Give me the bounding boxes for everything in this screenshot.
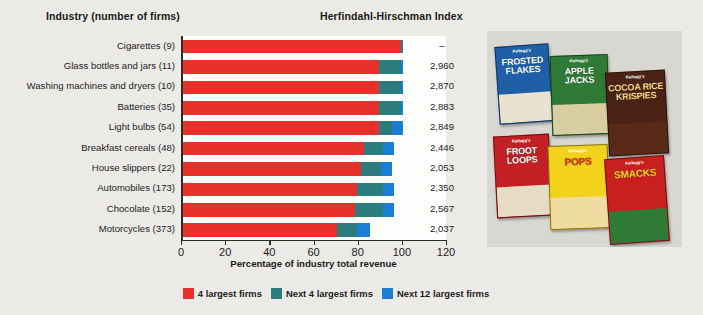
industry-label: House slippers (22) [92,162,175,173]
x-tick-120 [446,240,447,245]
industry-label: Breakfast cereals (48) [81,142,175,153]
bar-segment-four-largest [183,81,380,95]
chart-figure: Industry (number of firms) Herfindahl-Hi… [0,0,703,315]
cereal-box-art [609,208,669,244]
chart-row: Washing machines and dryers (10)2,870 [0,77,470,97]
cereal-box: Kellogg'sFROOT LOOPS [493,134,553,219]
chart-row: Glass bottles and jars (11)2,960 [0,57,470,77]
x-tick-40 [269,240,270,245]
bar-segment-next-four [364,142,384,156]
legend-item: Next 4 largest firms [271,288,373,299]
hhi-value: 2,053 [421,162,463,173]
chart-row: Chocolate (152)2,567 [0,200,470,220]
legend-swatch [382,288,393,299]
cereal-box-brand: Kellogg's [606,73,664,81]
cereal-box-name: COCOA RICE KRISPIES [606,82,665,103]
industry-label: Glass bottles and jars (11) [64,60,175,71]
x-tick-20 [225,240,226,245]
legend-swatch [183,288,194,299]
cereal-box: Kellogg'sAPPLE JACKS [550,54,611,136]
x-tick-60 [314,240,315,245]
bar-segment-next-twelve [383,203,394,217]
x-tick-label-120: 120 [437,246,455,258]
cereal-box-art [550,196,609,229]
cereal-box-name: SMACKS [606,167,665,181]
cereal-box: Kellogg'sPOPS [548,144,611,230]
stacked-bar [183,81,404,95]
x-tick-0 [181,240,182,245]
legend-swatch [271,288,282,299]
cereal-box-brand: Kellogg's [494,137,548,145]
hhi-value: 2,870 [421,80,463,91]
industry-column-header: Industry (number of firms) [46,10,180,22]
bar-segment-four-largest [183,101,380,115]
x-tick-80 [358,240,359,245]
industry-label: Washing machines and dryers (10) [27,80,175,91]
bar-segment-next-twelve [383,183,394,197]
stacked-bar [183,142,395,156]
chart-row: Cigarettes (9)– [0,37,470,57]
x-tick-label-60: 60 [307,246,319,258]
stacked-bar [183,183,395,197]
bar-segment-four-largest [183,203,355,217]
chart-row: House slippers (22)2,053 [0,159,470,179]
x-tick-label-80: 80 [352,246,364,258]
cereal-box: Kellogg'sSMACKS [604,155,670,245]
hhi-value: 2,350 [421,182,463,193]
bar-segment-next-four [355,203,384,217]
hhi-value: 2,037 [421,223,463,234]
x-tick-100 [402,240,403,245]
chart-row: Automobiles (173)2,350 [0,179,470,199]
industry-label: Batteries (35) [117,101,175,112]
stacked-bar [183,60,404,74]
bar-segment-next-four [361,162,381,176]
legend-label: 4 largest firms [198,288,262,299]
bar-segment-next-four [379,81,401,95]
bar-segment-four-largest [183,40,402,54]
bar-segment-next-twelve [401,60,403,74]
industry-label: Cigarettes (9) [117,40,175,51]
bar-segment-four-largest [183,142,364,156]
bar-segment-next-four [379,101,401,115]
industry-label: Automobiles (173) [97,182,175,193]
bar-segment-next-twelve [392,121,403,135]
cereal-box-art [609,121,669,155]
x-tick-label-20: 20 [219,246,231,258]
legend-item: 4 largest firms [183,288,262,299]
bar-segment-next-four [337,223,357,237]
bar-segment-next-four [379,121,392,135]
bar-segment-four-largest [183,183,357,197]
bar-segment-next-twelve [401,81,403,95]
hhi-column-header: Herfindahl-Hirschman Index [320,10,463,22]
x-tick-label-0: 0 [178,246,184,258]
cereal-box-brand: Kellogg's [496,46,548,55]
cereal-box: Kellogg'sCOCOA RICE KRISPIES [605,69,669,156]
hhi-value: 2,883 [421,101,463,112]
bar-segment-next-twelve [381,162,392,176]
stacked-bar [183,121,404,135]
bar-segment-next-four [357,183,384,197]
chart-row: Motorcycles (373)2,037 [0,220,470,240]
bar-segment-four-largest [183,60,380,74]
x-tick-label-100: 100 [393,246,411,258]
cereal-box-name: FROSTED FLAKES [496,55,549,77]
stacked-bar [183,101,404,115]
bar-segment-next-twelve [357,223,370,237]
cereal-box-name: POPS [549,156,607,168]
cereal-box-brand: Kellogg's [551,57,607,64]
cereal-box-name: FROOT LOOPS [495,146,550,167]
kelloggs-cereal-boxes-photo: Kellogg'sFROSTED FLAKESKellogg'sAPPLE JA… [487,31,682,247]
bar-segment-next-four [401,40,403,54]
cereal-box-art [552,103,609,135]
industry-label: Chocolate (152) [107,203,175,214]
bar-segment-next-twelve [383,142,394,156]
stacked-bar [183,162,393,176]
hhi-value: 2,567 [421,203,463,214]
cereal-box-name: APPLE JACKS [551,66,608,86]
bar-segment-four-largest [183,162,362,176]
hhi-value: 2,446 [421,142,463,153]
x-tick-label-40: 40 [263,246,275,258]
chart-row: Batteries (35)2,883 [0,98,470,118]
bar-segment-next-four [379,60,401,74]
hhi-value: 2,849 [421,121,463,132]
